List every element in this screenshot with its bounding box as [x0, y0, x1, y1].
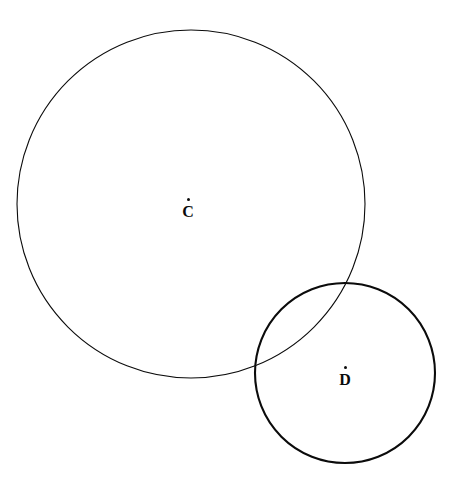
circle-d-label-text: D [339, 372, 351, 388]
circles-diagram-canvas [0, 0, 459, 501]
geometry-figure: C D [0, 0, 459, 501]
circle-c-label-text: C [182, 204, 194, 220]
center-point-dot-icon [187, 198, 190, 201]
center-point-dot-icon [344, 366, 347, 369]
circle-d-center-label: D [333, 366, 357, 394]
circle-c-center-label: C [176, 198, 200, 224]
diagram-background [0, 0, 459, 501]
